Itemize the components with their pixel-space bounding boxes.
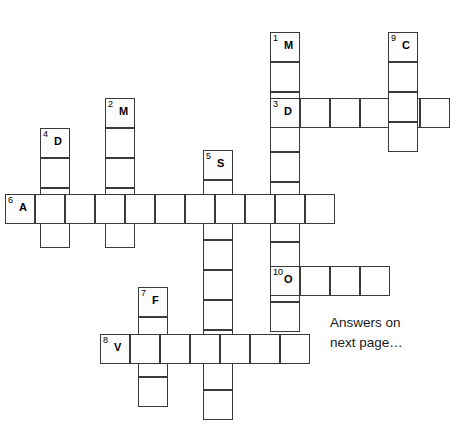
clue-number: 6 — [8, 195, 13, 205]
cell-letter: D — [54, 135, 62, 147]
crossword-cell[interactable] — [270, 152, 300, 182]
crossword-cell[interactable] — [203, 300, 233, 330]
crossword-cell-start-5[interactable]: 5S — [203, 150, 233, 180]
crossword-cell[interactable] — [300, 98, 330, 128]
crossword-cell[interactable] — [105, 158, 135, 188]
cell-letter: C — [402, 39, 410, 51]
crossword-cell[interactable] — [220, 334, 250, 364]
crossword-cell[interactable] — [420, 98, 450, 128]
crossword-puzzle: 1M2M3D4D5S6A7F8V9C10O Answers on next pa… — [0, 0, 468, 428]
cell-letter: F — [152, 294, 159, 306]
crossword-cell[interactable] — [203, 240, 233, 270]
crossword-cell[interactable] — [388, 122, 418, 152]
crossword-cell[interactable] — [388, 92, 418, 122]
cell-letter: V — [114, 341, 121, 353]
clue-number: 5 — [206, 151, 211, 161]
answers-note: Answers on next page… — [330, 313, 450, 353]
crossword-cell-start-10[interactable]: 10O — [270, 266, 300, 296]
crossword-cell[interactable] — [65, 194, 95, 224]
crossword-cell-start-9[interactable]: 9C — [388, 32, 418, 62]
cell-letter: M — [119, 105, 128, 117]
crossword-cell[interactable] — [185, 194, 215, 224]
crossword-cell[interactable] — [130, 334, 160, 364]
crossword-cell[interactable] — [305, 194, 335, 224]
clue-number: 2 — [108, 99, 113, 109]
crossword-cell[interactable] — [270, 302, 300, 332]
crossword-cell[interactable] — [360, 98, 390, 128]
clue-number: 9 — [391, 33, 396, 43]
crossword-cell-start-6[interactable]: 6A — [5, 194, 35, 224]
clue-number: 1 — [273, 33, 278, 43]
clue-number: 10 — [273, 267, 283, 277]
cell-letter: S — [217, 157, 224, 169]
cell-letter: O — [284, 273, 293, 285]
clue-number: 4 — [43, 129, 48, 139]
crossword-cell[interactable] — [95, 194, 125, 224]
crossword-cell[interactable] — [270, 62, 300, 92]
crossword-cell[interactable] — [125, 194, 155, 224]
crossword-cell[interactable] — [105, 128, 135, 158]
clue-number: 7 — [141, 288, 146, 298]
crossword-cell[interactable] — [250, 334, 280, 364]
crossword-cell[interactable] — [330, 98, 360, 128]
crossword-cell-start-7[interactable]: 7F — [138, 287, 168, 317]
crossword-cell-start-2[interactable]: 2M — [105, 98, 135, 128]
crossword-cell[interactable] — [35, 194, 65, 224]
crossword-cell[interactable] — [215, 194, 245, 224]
crossword-cell[interactable] — [330, 266, 360, 296]
crossword-cell[interactable] — [275, 194, 305, 224]
cell-letter: A — [19, 201, 27, 213]
clue-number: 8 — [103, 335, 108, 345]
crossword-cell-start-3[interactable]: 3D — [270, 98, 300, 128]
crossword-cell[interactable] — [190, 334, 220, 364]
clue-number: 3 — [273, 99, 278, 109]
crossword-cell[interactable] — [160, 334, 190, 364]
crossword-cell[interactable] — [245, 194, 275, 224]
crossword-cell[interactable] — [155, 194, 185, 224]
crossword-cell[interactable] — [280, 334, 310, 364]
crossword-cell-start-8[interactable]: 8V — [100, 334, 130, 364]
crossword-cell-start-1[interactable]: 1M — [270, 32, 300, 62]
crossword-cell[interactable] — [360, 266, 390, 296]
crossword-cell[interactable] — [203, 360, 233, 390]
crossword-cell[interactable] — [138, 377, 168, 407]
crossword-cell-start-4[interactable]: 4D — [40, 128, 70, 158]
crossword-cell[interactable] — [203, 390, 233, 420]
crossword-cell[interactable] — [40, 158, 70, 188]
crossword-cell[interactable] — [203, 270, 233, 300]
cell-letter: D — [284, 105, 292, 117]
crossword-cell[interactable] — [300, 266, 330, 296]
cell-letter: M — [284, 39, 293, 51]
crossword-cell[interactable] — [388, 62, 418, 92]
